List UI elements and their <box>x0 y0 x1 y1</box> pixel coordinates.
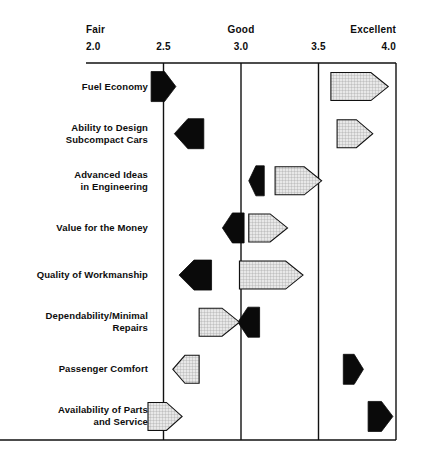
axis-tick-3.5: 3.5 <box>311 41 326 52</box>
marker-black-left <box>222 213 244 243</box>
axis-scale-label-excellent: Excellent <box>350 24 396 35</box>
category-label: Fuel Economy <box>0 81 148 93</box>
marker-gray-right <box>239 261 303 289</box>
marker-black-left <box>179 260 212 290</box>
category-label: Passenger Comfort <box>0 363 148 375</box>
marker-gray-right <box>199 308 239 336</box>
marker-black-right <box>343 354 363 384</box>
marker-gray-right <box>249 214 288 242</box>
marker-gray-right <box>331 73 388 101</box>
marker-black-right <box>151 72 176 102</box>
rating-comparison-chart: FairGoodExcellent2.02.53.03.54.0 Fuel Ec… <box>0 0 426 465</box>
category-label: Advanced Ideas in Engineering <box>0 169 148 193</box>
marker-gray-left <box>173 355 199 383</box>
marker-black-left <box>249 166 265 196</box>
axis-tick-2.0: 2.0 <box>86 41 101 52</box>
axis-tick-3.0: 3.0 <box>234 41 249 52</box>
marker-group <box>148 72 393 432</box>
axis-scale-label-good: Good <box>228 24 255 35</box>
marker-gray-right <box>337 120 373 148</box>
marker-gray-right <box>275 167 322 195</box>
axis-tick-2.5: 2.5 <box>156 41 171 52</box>
marker-gray-right <box>148 402 182 430</box>
axis-scale-label-fair: Fair <box>86 24 105 35</box>
marker-black-left <box>174 119 203 149</box>
axis-tick-4.0: 4.0 <box>381 41 396 52</box>
category-label: Value for the Money <box>0 222 148 234</box>
category-label: Dependability/Minimal Repairs <box>0 310 148 334</box>
marker-black-right <box>368 401 393 431</box>
category-label: Availability of Parts and Service <box>0 404 148 428</box>
category-label: Quality of Workmanship <box>0 269 148 281</box>
category-label: Ability to Design Subcompact Cars <box>0 122 148 146</box>
